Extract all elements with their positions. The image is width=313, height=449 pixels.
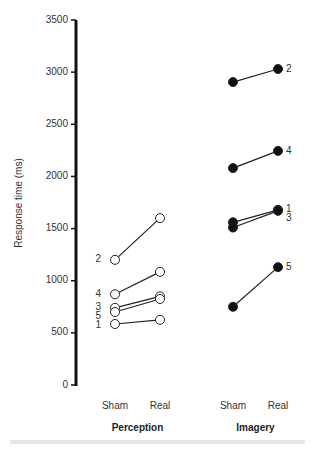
y-tick-label: 3500: [46, 14, 69, 25]
data-point-sham: [229, 164, 238, 173]
y-tick-label: 1500: [46, 222, 69, 233]
group-imagery: 24135: [229, 63, 293, 312]
point-label-2: 2: [286, 63, 292, 74]
point-label-5: 5: [286, 261, 292, 272]
point-label-4: 4: [286, 145, 292, 156]
data-point-real: [274, 146, 283, 155]
point-labels: 24351: [95, 253, 101, 330]
series-4: [229, 146, 283, 172]
data-point-sham: [229, 302, 238, 311]
data-point-real: [274, 65, 283, 74]
group-label-imagery: Imagery: [236, 422, 275, 433]
x-label-sham: Sham: [220, 400, 246, 411]
series-line: [115, 272, 160, 294]
series-line: [115, 320, 160, 324]
point-label-2: 2: [95, 253, 101, 264]
point-label-4: 4: [95, 288, 101, 299]
data-point-real: [156, 214, 165, 223]
series-5: [229, 263, 283, 312]
series-line: [233, 69, 278, 82]
series-line: [115, 299, 160, 312]
y-tick-label: 1000: [46, 274, 69, 285]
point-label-3: 3: [286, 212, 292, 223]
series-line: [233, 211, 278, 228]
point-label-1: 1: [95, 319, 101, 330]
response-time-chart: 0500100015002000250030003500 Response ti…: [0, 0, 313, 449]
series-line: [115, 296, 160, 307]
data-point-real: [274, 206, 283, 215]
group-perception: 24351: [95, 214, 164, 331]
plot-area: 2435124135: [95, 63, 292, 331]
data-point-real: [156, 267, 165, 276]
data-point-sham: [111, 319, 120, 328]
y-tick-label: 2500: [46, 118, 69, 129]
series-2: [229, 65, 283, 87]
y-tick-label: 2000: [46, 170, 69, 181]
data-point-sham: [111, 308, 120, 317]
series-1: [111, 315, 165, 328]
data-point-sham: [229, 223, 238, 232]
data-point-sham: [111, 290, 120, 299]
x-label-sham: Sham: [102, 400, 128, 411]
y-tick-label: 500: [51, 326, 68, 337]
series-2: [111, 214, 165, 265]
group-label-perception: Perception: [112, 422, 164, 433]
y-axis: 0500100015002000250030003500: [46, 14, 76, 390]
data-point-real: [156, 315, 165, 324]
data-point-real: [156, 294, 165, 303]
series-line: [233, 267, 278, 307]
caption-fragment: [10, 440, 305, 444]
series-line: [233, 151, 278, 168]
data-point-real: [274, 263, 283, 272]
series-line: [115, 218, 160, 260]
point-labels: 24135: [286, 63, 292, 272]
data-point-sham: [111, 255, 120, 264]
data-point-sham: [229, 78, 238, 87]
x-axis-labels: ShamRealPerceptionShamRealImagery: [102, 400, 288, 433]
x-label-real: Real: [150, 400, 171, 411]
x-label-real: Real: [268, 400, 289, 411]
y-tick-label: 3000: [46, 66, 69, 77]
y-axis-title: Response time (ms): [13, 158, 24, 247]
y-tick-label: 0: [62, 379, 68, 390]
series-line: [233, 210, 278, 223]
